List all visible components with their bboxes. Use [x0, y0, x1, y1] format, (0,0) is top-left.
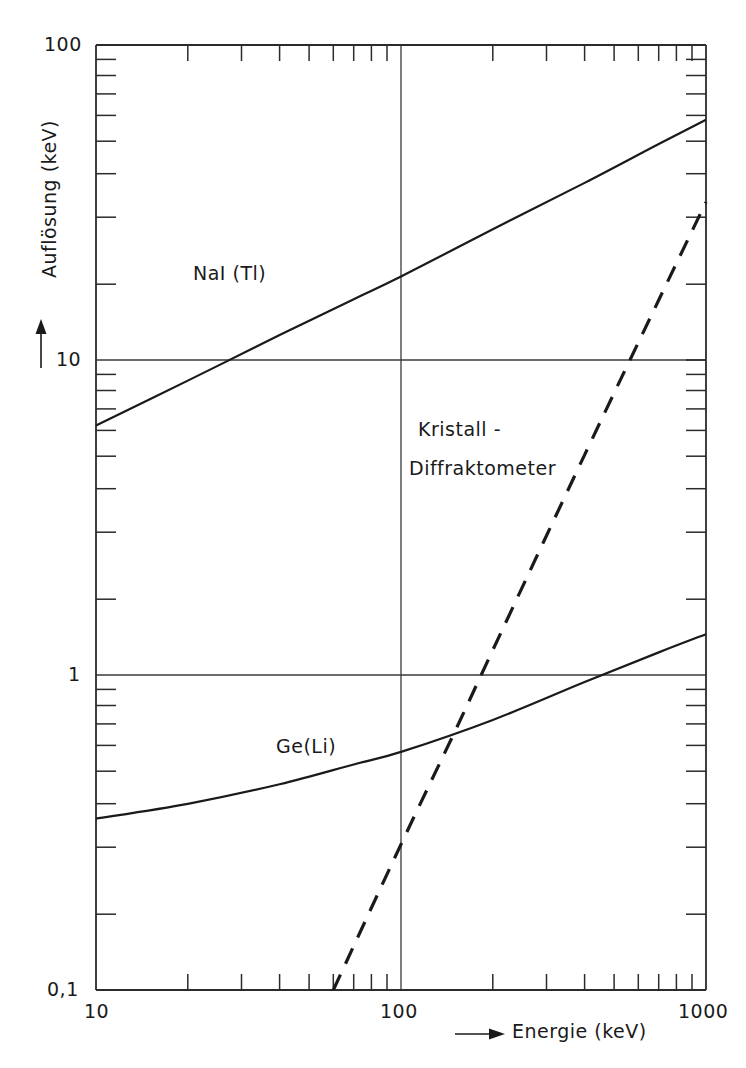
figure-container: Auflösung (keV) Energie (keV) 100 10 1 0… [0, 0, 746, 1068]
x-tick-label-1000: 1000 [678, 1000, 728, 1022]
y-tick-label-10: 10 [56, 348, 81, 370]
y-axis-title: Auflösung (keV) [38, 120, 60, 278]
curve-label-nai: NaI (Tl) [193, 262, 266, 284]
x-tick-label-10: 10 [84, 1000, 109, 1022]
y-tick-label-1: 1 [68, 663, 81, 685]
y-tick-label-100: 100 [44, 33, 82, 55]
y-axis-arrow-icon [30, 318, 52, 370]
chart-plot-area [0, 0, 746, 1068]
x-axis-title: Energie (keV) [512, 1020, 647, 1042]
y-tick-label-0-1: 0,1 [47, 978, 79, 1000]
x-tick-label-100: 100 [380, 1000, 418, 1022]
curve-label-kristall-line1: Kristall - [418, 418, 501, 440]
curve-label-kristall-line2: Diffraktometer [409, 457, 556, 479]
x-axis-arrow-icon [455, 1024, 507, 1044]
curve-label-geli: Ge(Li) [276, 735, 336, 757]
